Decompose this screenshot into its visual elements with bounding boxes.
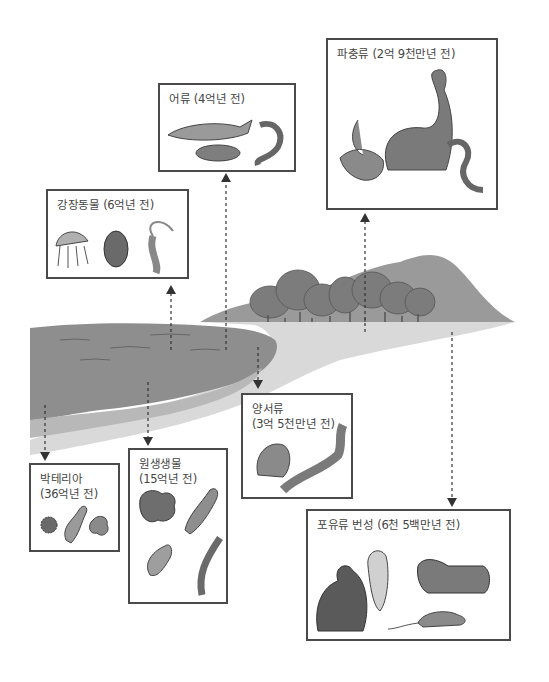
tiger-icon (417, 560, 489, 593)
arrow-down-icon (143, 437, 153, 446)
arrow-up-icon (221, 173, 231, 182)
snake-icon (448, 142, 483, 190)
blob-cell-icon (90, 516, 109, 535)
euglena-icon (148, 545, 172, 576)
stage-box-amphibians: 양서류 (3억 5천만년 전) (241, 393, 353, 499)
arrow-up-icon (166, 285, 176, 294)
stage-box-mammals: 포유류 번성 (6천 5백만년 전) (306, 509, 511, 641)
arrow-down-icon (447, 498, 457, 507)
orangutan-icon (317, 566, 367, 631)
trilobite-icon (104, 231, 128, 267)
spiky-ball-icon (41, 517, 57, 533)
lungfish-icon (196, 145, 240, 161)
jellyfish-icon (56, 232, 88, 268)
stage-box-reptiles: 파충류 (2억 9천만년 전) (326, 38, 498, 210)
stage-box-fish: 어류 (4억년 전) (158, 83, 296, 172)
dinosaur-icon (385, 70, 452, 170)
monkey-icon (368, 551, 388, 611)
stage-box-bacteria: 박테리아 (36억년 전) (29, 463, 120, 552)
stage-box-protists: 원생생물 (15억년 전) (128, 448, 228, 604)
amoeba-icon (140, 491, 175, 522)
eel-icon (258, 124, 281, 165)
hydra-icon (150, 222, 173, 273)
shark-icon (168, 120, 252, 140)
salamander-icon (283, 425, 343, 490)
rat-icon (388, 612, 465, 629)
paramecium-icon (185, 489, 218, 534)
seaweed-icon (201, 538, 220, 595)
stage-box-coelenterates: 강장동물 (6억년 전) (46, 189, 189, 279)
frog-icon (257, 444, 290, 477)
lizard-icon (340, 120, 384, 180)
rod-cell-icon (65, 506, 87, 543)
arrow-down-icon (40, 452, 50, 461)
arrow-up-icon (360, 213, 370, 222)
evolution-illustration: 파충류 (2억 9천만년 전) 어류 (4억년 전) 강장동물 (6억년 전) … (0, 0, 549, 682)
